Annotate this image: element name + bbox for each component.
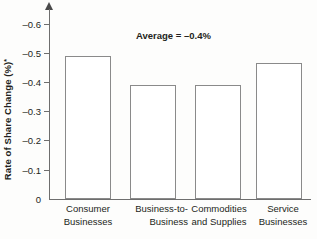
x-category-line-2: Businesses bbox=[252, 216, 314, 229]
y-axis-line bbox=[49, 9, 50, 200]
y-tick-label: –0.4 bbox=[11, 77, 41, 88]
x-category-label-commodities-and-supplies: Commodities and Supplies bbox=[186, 203, 252, 228]
bar-service-businesses bbox=[256, 63, 302, 199]
y-tick-label: –0.6 bbox=[11, 19, 41, 30]
bar-commodities-and-supplies bbox=[195, 85, 241, 199]
y-tick-mark bbox=[44, 53, 49, 54]
x-category-label-consumer-businesses: Consumer Businesses bbox=[60, 203, 116, 228]
bar-business-to-business bbox=[130, 85, 176, 199]
x-category-line-1: Business-to- bbox=[118, 203, 188, 216]
bar-consumer-businesses bbox=[65, 56, 111, 199]
x-axis-line bbox=[49, 199, 311, 200]
y-tick-label: 0 bbox=[11, 194, 41, 205]
bar-chart-figure: Rate of Share Change (%)* –0.6 –0.5 –0.4… bbox=[0, 0, 317, 239]
average-annotation: Average = –0.4% bbox=[136, 30, 211, 41]
x-category-line-2: and Supplies bbox=[186, 216, 252, 229]
y-tick-mark bbox=[44, 111, 49, 112]
y-tick-label: –0.2 bbox=[11, 135, 41, 146]
x-category-label-service-businesses: Service Businesses bbox=[252, 203, 314, 228]
x-category-line-2: Business bbox=[118, 216, 188, 229]
x-category-label-business-to-business: Business-to- Business bbox=[118, 203, 188, 228]
x-category-line-1: Service bbox=[252, 203, 314, 216]
x-category-line-1: Commodities bbox=[186, 203, 252, 216]
y-tick-mark bbox=[44, 170, 49, 171]
y-tick-mark bbox=[44, 24, 49, 25]
x-category-line-2: Businesses bbox=[60, 216, 116, 229]
y-tick-mark bbox=[44, 140, 49, 141]
y-tick-label: –0.3 bbox=[11, 106, 41, 117]
x-category-line-1: Consumer bbox=[60, 203, 116, 216]
y-tick-mark bbox=[44, 82, 49, 83]
y-tick-label: –0.5 bbox=[11, 48, 41, 59]
y-tick-label: –0.1 bbox=[11, 165, 41, 176]
